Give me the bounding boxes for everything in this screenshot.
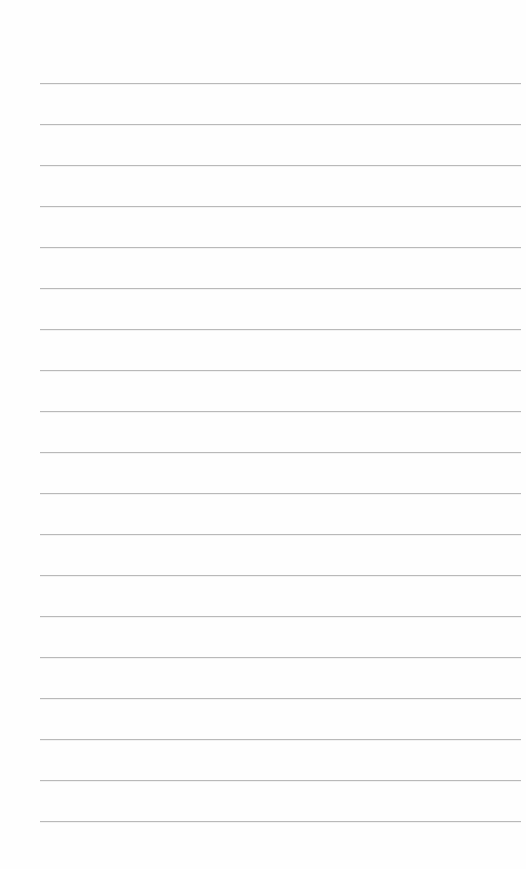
ruled-line (40, 247, 521, 248)
ruled-line (40, 780, 521, 781)
ruled-line (40, 821, 521, 822)
ruled-line (40, 329, 521, 330)
ruled-line (40, 575, 521, 576)
ruled-line (40, 493, 521, 494)
ruled-line (40, 165, 521, 166)
ruled-line (40, 698, 521, 699)
ruled-line (40, 452, 521, 453)
ruled-line (40, 124, 521, 125)
ruled-line (40, 83, 521, 84)
ruled-line (40, 534, 521, 535)
ruled-line (40, 616, 521, 617)
ruled-line (40, 739, 521, 740)
ruled-line (40, 370, 521, 371)
ruled-line (40, 206, 521, 207)
ruled-page (0, 0, 526, 869)
ruled-line (40, 657, 521, 658)
ruled-line (40, 411, 521, 412)
ruled-line (40, 288, 521, 289)
